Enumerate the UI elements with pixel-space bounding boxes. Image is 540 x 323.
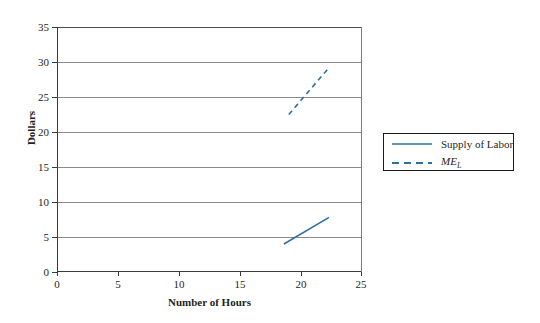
x-tick-label-20: 20 <box>296 278 307 290</box>
legend-label-me-l: MEL <box>441 155 461 170</box>
chart-legend: Supply of Labor MEL <box>383 133 514 171</box>
legend-swatch-solid-line-icon <box>392 138 432 150</box>
plot-area: 35 30 25 20 15 10 5 0 0 5 10 15 20 25 <box>57 27 362 272</box>
y-tick-label-15: 15 <box>38 161 49 173</box>
x-axis-title: Number of Hours <box>57 296 362 308</box>
legend-item-me-l[interactable]: MEL <box>384 153 513 172</box>
x-tick-mark-20 <box>301 272 302 276</box>
chart-figure: 35 30 25 20 15 10 5 0 0 5 10 15 20 25 Do… <box>0 0 540 323</box>
y-tick-label-0: 0 <box>44 266 50 278</box>
series-line-supply-of-labor <box>284 217 329 244</box>
legend-label-me-subscript: L <box>457 161 461 170</box>
legend-swatch-dashed-line-icon <box>392 157 432 169</box>
x-tick-mark-10 <box>179 272 180 276</box>
y-tick-label-25: 25 <box>38 91 49 103</box>
legend-item-supply-of-labor[interactable]: Supply of Labor <box>384 134 513 153</box>
x-tick-label-10: 10 <box>174 278 185 290</box>
y-tick-label-20: 20 <box>38 126 49 138</box>
x-tick-mark-25 <box>361 272 362 276</box>
legend-label-me-base: ME <box>441 155 457 167</box>
series-layer <box>57 27 362 272</box>
y-tick-label-5: 5 <box>44 231 50 243</box>
y-axis-title: Dollars <box>25 111 37 145</box>
x-tick-label-15: 15 <box>235 278 246 290</box>
x-tick-label-0: 0 <box>54 278 60 290</box>
x-tick-label-25: 25 <box>356 278 367 290</box>
x-tick-mark-15 <box>240 272 241 276</box>
x-tick-mark-0 <box>57 272 58 276</box>
y-tick-label-30: 30 <box>38 56 49 68</box>
series-line-me-l <box>289 69 328 115</box>
y-tick-label-35: 35 <box>38 21 49 33</box>
legend-label-supply-of-labor: Supply of Labor <box>441 138 513 150</box>
y-tick-label-10: 10 <box>38 196 49 208</box>
x-tick-mark-5 <box>118 272 119 276</box>
x-tick-label-5: 5 <box>115 278 121 290</box>
